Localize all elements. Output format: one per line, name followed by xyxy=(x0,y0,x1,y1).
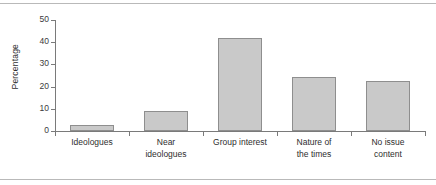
y-tick-label: 30 xyxy=(40,58,49,69)
x-axis-category-label: Nature of the times xyxy=(277,137,351,160)
y-tick-mark xyxy=(51,64,55,65)
y-axis-title-text: Percentage xyxy=(10,44,20,89)
bar xyxy=(218,38,262,131)
x-axis-category-label: Ideologues xyxy=(55,137,129,149)
y-axis-title: Percentage xyxy=(10,0,20,44)
x-tick-mark xyxy=(351,131,352,136)
y-tick-label: 10 xyxy=(40,103,49,114)
x-axis-category-label: Group interest xyxy=(203,137,277,149)
bar xyxy=(366,81,410,131)
bar-chart-figure: Percentage 01020304050 IdeologuesNear id… xyxy=(0,0,436,185)
x-tick-mark xyxy=(277,131,278,136)
y-tick-label: 0 xyxy=(44,125,49,136)
y-tick-mark xyxy=(51,42,55,43)
y-tick-mark xyxy=(51,87,55,88)
y-tick-label: 50 xyxy=(40,14,49,25)
bar xyxy=(70,125,114,131)
x-tick-mark xyxy=(55,131,56,136)
y-tick-label: 20 xyxy=(40,81,49,92)
x-tick-mark xyxy=(129,131,130,136)
x-axis-category-label: Near ideologues xyxy=(129,137,203,160)
bar xyxy=(144,111,188,131)
top-divider-rule xyxy=(0,3,436,4)
x-axis-category-label: No issue content xyxy=(351,137,425,160)
bottom-divider-rule xyxy=(0,179,436,180)
plot-area: 01020304050 xyxy=(55,20,425,131)
x-tick-mark xyxy=(425,131,426,136)
bar xyxy=(292,77,336,131)
x-tick-mark xyxy=(203,131,204,136)
y-tick-label: 40 xyxy=(40,36,49,47)
y-tick-mark xyxy=(51,20,55,21)
y-tick-mark xyxy=(51,109,55,110)
x-axis-line xyxy=(55,131,426,132)
